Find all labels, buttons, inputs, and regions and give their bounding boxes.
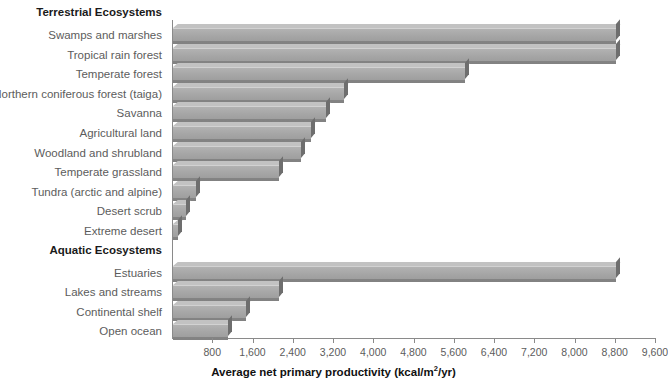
bar-side-face [279,276,283,297]
bar-base-shading [173,237,178,240]
category-label: Lakes and streams [65,286,162,299]
bar-top-face [173,301,251,305]
bar-side-face [279,156,283,177]
category-label: Northern coniferous forest (taiga) [0,88,162,101]
x-axis-tick [655,338,656,343]
category-label: Tropical rain forest [67,49,162,62]
bar [173,285,279,301]
bar-side-face [178,215,182,236]
group-heading: Terrestrial Ecosystems [36,6,162,19]
bar-top-face [173,83,349,87]
bar [173,126,311,142]
bar-side-face [311,117,315,138]
category-label: Temperate grassland [55,166,162,179]
category-label: Desert scrub [97,205,162,218]
x-axis-tick [212,338,213,343]
x-axis-title: Average net primary productivity (kcal/m… [0,364,667,378]
bar-top-face [173,161,283,165]
bar-top-face [173,44,621,48]
bar [173,305,246,321]
bar [173,106,326,122]
category-label: Open ocean [99,325,162,338]
x-axis-tick-label: 3,200 [320,346,346,358]
bar-side-face [301,137,305,158]
bar [173,224,178,240]
bar-top-face [173,24,621,28]
bar-side-face [246,296,250,317]
bar-side-face [465,58,469,79]
bar-side-face [616,19,620,40]
bar-side-face [616,39,620,60]
x-axis-tick [414,338,415,343]
x-axis-tick-label: 9,600 [642,346,668,358]
x-axis-tick-label: 800 [203,346,221,358]
bar-top-face [173,63,470,67]
x-axis-tick [373,338,374,343]
x-axis-tick-label: 7,200 [521,346,547,358]
bar [173,165,279,181]
bar-top-face [173,320,233,324]
category-label: Estuaries [114,267,162,280]
bar [173,324,228,340]
x-axis-tick [575,338,576,343]
bar [173,48,616,64]
x-axis-tick-label: 4,000 [360,346,386,358]
category-label: Savanna [117,107,162,120]
bar-top-face [173,122,316,126]
x-axis-tick-label: 6,400 [481,346,507,358]
x-axis-tick-label: 8,000 [561,346,587,358]
bar [173,67,465,83]
x-axis-tick-label: 4,800 [400,346,426,358]
category-label: Swamps and marshes [48,29,162,42]
x-axis-title-suffix: /yr) [438,366,456,378]
category-label: Tundra (arctic and alpine) [31,186,162,199]
bar-side-face [326,98,330,119]
x-axis-tick [494,338,495,343]
x-axis-tick [333,338,334,343]
plot-area: 8001,6002,4003,2004,0004,8005,6006,4007,… [172,0,667,340]
bar-top-face [173,281,283,285]
x-axis-tick [615,338,616,343]
bar [173,28,616,44]
bar-side-face [186,196,190,217]
x-axis-tick [293,338,294,343]
bar [173,266,616,282]
bar-side-face [228,316,232,337]
category-label: Woodland and shrubland [34,147,162,160]
bar-base-shading [173,337,228,340]
x-axis-tick [253,338,254,343]
bar-side-face [616,257,620,278]
x-axis-tick-label: 5,600 [441,346,467,358]
category-label: Temperate forest [76,68,162,81]
category-label-column: Terrestrial EcosystemsSwamps and marshes… [0,0,168,340]
x-axis-tick-label: 8,800 [602,346,628,358]
bar-side-face [344,78,348,99]
x-axis-tick-label: 1,600 [239,346,265,358]
bar [173,185,196,201]
x-axis-title-prefix: Average net primary productivity (kcal/m [211,366,434,378]
bar-side-face [196,176,200,197]
x-axis-tick [534,338,535,343]
bar-top-face [173,262,621,266]
group-heading: Aquatic Ecosystems [50,244,163,257]
bar [173,87,344,103]
bar-top-face [173,142,306,146]
category-label: Extreme desert [84,225,162,238]
x-axis-tick [454,338,455,343]
bar-top-face [173,102,331,106]
category-label: Agricultural land [80,127,162,140]
x-axis-tick-label: 2,400 [280,346,306,358]
category-label: Continental shelf [76,306,162,319]
